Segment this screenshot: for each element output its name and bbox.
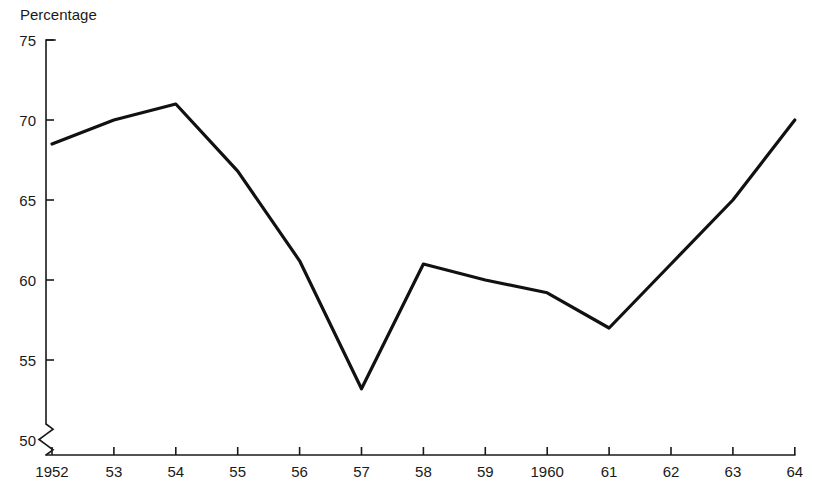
y-tick-label: 55 [19,352,36,369]
y-tick-label: 70 [19,112,36,129]
y-tick-label: 60 [19,272,36,289]
x-tick-label: 57 [353,463,370,480]
chart-container: Percentage 505560657075 1952535455565758… [0,0,815,488]
x-tick-label: 1960 [531,463,564,480]
x-tick-label: 62 [663,463,680,480]
y-tick-label: 50 [19,432,36,449]
data-series-line [52,104,795,389]
x-tick-label: 63 [725,463,742,480]
y-axis-line [46,40,55,424]
x-tick-label: 54 [167,463,184,480]
y-tick-label: 65 [19,192,36,209]
x-tick-label: 64 [786,463,803,480]
x-tick-label: 61 [601,463,618,480]
y-axis-tick-marks [46,40,54,360]
y-axis-tick-labels: 505560657075 [19,32,36,449]
x-axis-tick-marks [52,447,795,455]
line-chart-plot: 505560657075 195253545556575859196061626… [0,0,815,488]
x-tick-label: 53 [106,463,123,480]
x-axis-tick-labels: 195253545556575859196061626364 [35,463,803,480]
y-tick-label: 75 [19,32,36,49]
x-tick-label: 59 [477,463,494,480]
x-tick-label: 58 [415,463,432,480]
x-tick-label: 56 [291,463,308,480]
x-tick-label: 55 [229,463,246,480]
x-tick-label: 1952 [35,463,68,480]
y-axis-break-icon [39,424,53,455]
